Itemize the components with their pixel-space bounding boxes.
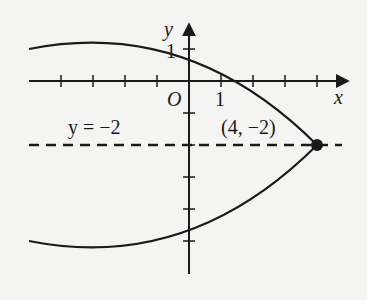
y-one-label: 1 xyxy=(166,40,176,62)
parabola-diagram: y x O 1 1 y = −2 (4, −2) xyxy=(0,0,367,300)
x-one-label: 1 xyxy=(215,88,225,110)
line-label: y = −2 xyxy=(68,116,121,139)
x-axis-label: x xyxy=(333,86,343,108)
origin-label: O xyxy=(167,88,181,110)
vertex-point xyxy=(311,139,323,151)
y-axis-label: y xyxy=(162,18,173,41)
vertex-label: (4, −2) xyxy=(221,116,276,139)
